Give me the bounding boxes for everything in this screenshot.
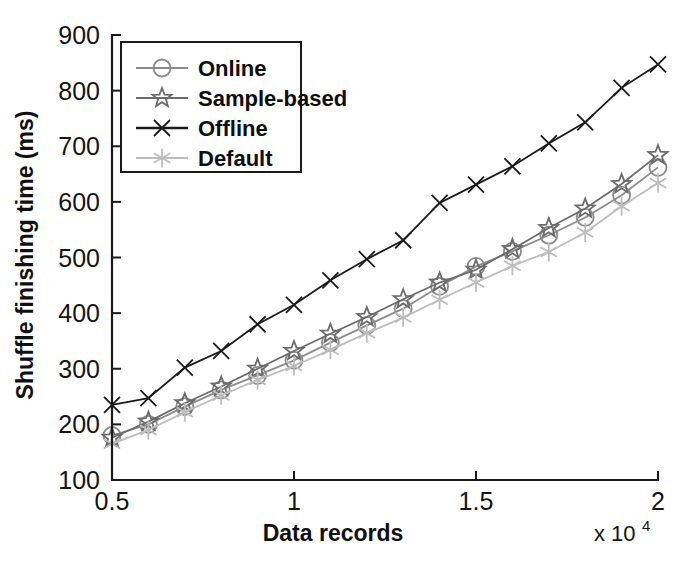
data-point-marker — [541, 135, 557, 151]
data-point-marker — [177, 360, 193, 376]
y-tick-label: 600 — [58, 188, 100, 216]
data-point-marker — [577, 223, 593, 242]
data-point-marker — [430, 273, 449, 291]
legend-label: Offline — [198, 116, 268, 141]
data-point-marker — [140, 390, 156, 406]
y-axis-title: Shuffle finishing time (ms) — [12, 111, 38, 400]
x-tick-label: 0.5 — [95, 487, 130, 515]
legend-label: Online — [198, 56, 266, 81]
data-point-marker — [577, 114, 593, 130]
series-line — [112, 155, 658, 438]
x-axis-multiplier: x 10 — [594, 521, 636, 546]
data-point-marker — [468, 177, 484, 193]
data-point-marker — [359, 251, 375, 267]
data-point-marker — [432, 195, 448, 211]
legend-label: Sample-based — [198, 86, 347, 111]
y-tick-label: 400 — [58, 299, 100, 327]
x-tick-label: 2 — [651, 487, 665, 515]
series-line — [112, 167, 658, 435]
chart-figure: 1002003004005006007008009000.511.52 Onli… — [0, 0, 694, 566]
data-point-marker — [213, 343, 229, 359]
data-point-marker — [286, 297, 302, 313]
data-point-marker — [395, 232, 411, 248]
y-tick-label: 300 — [58, 355, 100, 383]
series-sample-based — [102, 145, 667, 446]
x-axis-title: Data records — [263, 520, 404, 546]
data-point-marker — [250, 316, 266, 332]
legend-label: Default — [198, 146, 273, 171]
chart-legend: OnlineSample-basedOfflineDefault — [121, 42, 347, 172]
data-point-marker — [650, 56, 666, 72]
data-point-marker — [504, 158, 520, 174]
data-point-marker — [541, 242, 557, 261]
data-point-marker — [504, 256, 520, 275]
y-tick-label: 500 — [58, 244, 100, 272]
x-tick-label: 1 — [287, 487, 301, 515]
data-point-marker — [359, 324, 375, 343]
y-tick-label: 700 — [58, 132, 100, 160]
y-tick-label: 200 — [58, 410, 100, 438]
data-point-marker — [322, 272, 338, 288]
x-axis-multiplier-exponent: 4 — [642, 517, 650, 534]
line-chart: 1002003004005006007008009000.511.52 Onli… — [0, 0, 694, 566]
x-tick-label: 1.5 — [459, 487, 494, 515]
y-tick-label: 900 — [58, 21, 100, 49]
y-tick-label: 800 — [58, 77, 100, 105]
data-point-marker — [614, 80, 630, 96]
data-point-marker — [650, 173, 666, 192]
